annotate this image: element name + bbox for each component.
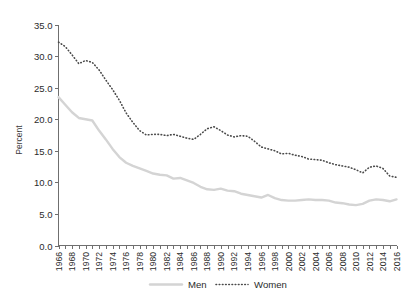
y-tick-label: 10.0 bbox=[34, 177, 53, 188]
x-tick-label: 2002 bbox=[297, 252, 307, 271]
legend-label-men: Men bbox=[188, 279, 207, 290]
y-tick-label: 0.0 bbox=[39, 241, 52, 252]
y-tick-label: 35.0 bbox=[34, 20, 53, 31]
x-tick-label: 2014 bbox=[378, 252, 388, 271]
x-tick-label: 1988 bbox=[202, 252, 212, 271]
x-tick-label: 2004 bbox=[311, 252, 321, 271]
y-tick-label: 30.0 bbox=[34, 51, 53, 62]
x-tick-label: 1972 bbox=[94, 252, 104, 271]
x-tick-label: 1968 bbox=[67, 252, 77, 271]
x-tick-label: 1986 bbox=[189, 252, 199, 271]
x-tick-label: 1974 bbox=[108, 252, 118, 271]
x-tick-label: 1990 bbox=[216, 252, 226, 271]
x-tick-label: 1966 bbox=[54, 252, 64, 271]
y-tick-label: 25.0 bbox=[34, 83, 53, 94]
x-tick-label: 2000 bbox=[284, 252, 294, 271]
x-tick-label: 2006 bbox=[324, 252, 334, 271]
line-chart: Percent 0.05.010.015.020.025.030.035.0 1… bbox=[0, 0, 417, 301]
x-tick-label: 1976 bbox=[121, 252, 131, 271]
y-axis-label: Percent bbox=[14, 125, 24, 155]
x-tick-label: 1980 bbox=[148, 252, 158, 271]
x-tick-label: 1992 bbox=[229, 252, 239, 271]
x-tick-label: 1994 bbox=[243, 252, 253, 271]
x-tick-label: 1978 bbox=[135, 252, 145, 271]
x-tick-label: 1970 bbox=[81, 252, 91, 271]
legend-label-women: Women bbox=[254, 279, 287, 290]
y-tick-label: 5.0 bbox=[39, 209, 52, 220]
x-tick-label: 1998 bbox=[270, 252, 280, 271]
chart-container: Percent 0.05.010.015.020.025.030.035.0 1… bbox=[0, 0, 417, 301]
x-tick-label: 2016 bbox=[392, 252, 402, 271]
x-tick-label: 2012 bbox=[365, 252, 375, 271]
x-tick-label: 1984 bbox=[175, 252, 185, 271]
x-tick-label: 2010 bbox=[351, 252, 361, 271]
y-tick-label: 20.0 bbox=[34, 114, 53, 125]
x-tick-label: 1982 bbox=[162, 252, 172, 271]
x-tick-label: 2008 bbox=[338, 252, 348, 271]
x-tick-label: 1996 bbox=[257, 252, 267, 271]
y-tick-label: 15.0 bbox=[34, 146, 53, 157]
